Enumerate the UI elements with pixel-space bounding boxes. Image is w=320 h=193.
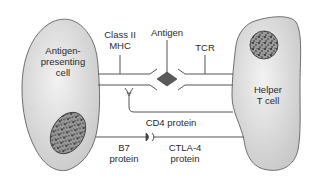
helper-nucleus	[250, 31, 278, 59]
b7-ctla4-link	[96, 133, 244, 141]
helper-t-cell-label: Helper T cell	[248, 84, 288, 106]
antigen-label: Antigen	[147, 27, 187, 38]
mhc-label: Class II MHC	[100, 29, 140, 51]
tcr-label: TCR	[192, 42, 218, 53]
b7-knob	[146, 133, 149, 141]
ctla4-label: CTLA-4 protein	[163, 142, 207, 164]
cd4-protein	[125, 88, 233, 112]
mhc-molecule	[98, 55, 157, 90]
antigen-diamond	[157, 72, 177, 86]
b7-label: B7 protein	[106, 142, 142, 164]
cd4-label: CD4 protein	[136, 117, 206, 128]
apc-label: Antigen- presenting cell	[36, 45, 90, 78]
tcr-molecule	[178, 55, 233, 90]
